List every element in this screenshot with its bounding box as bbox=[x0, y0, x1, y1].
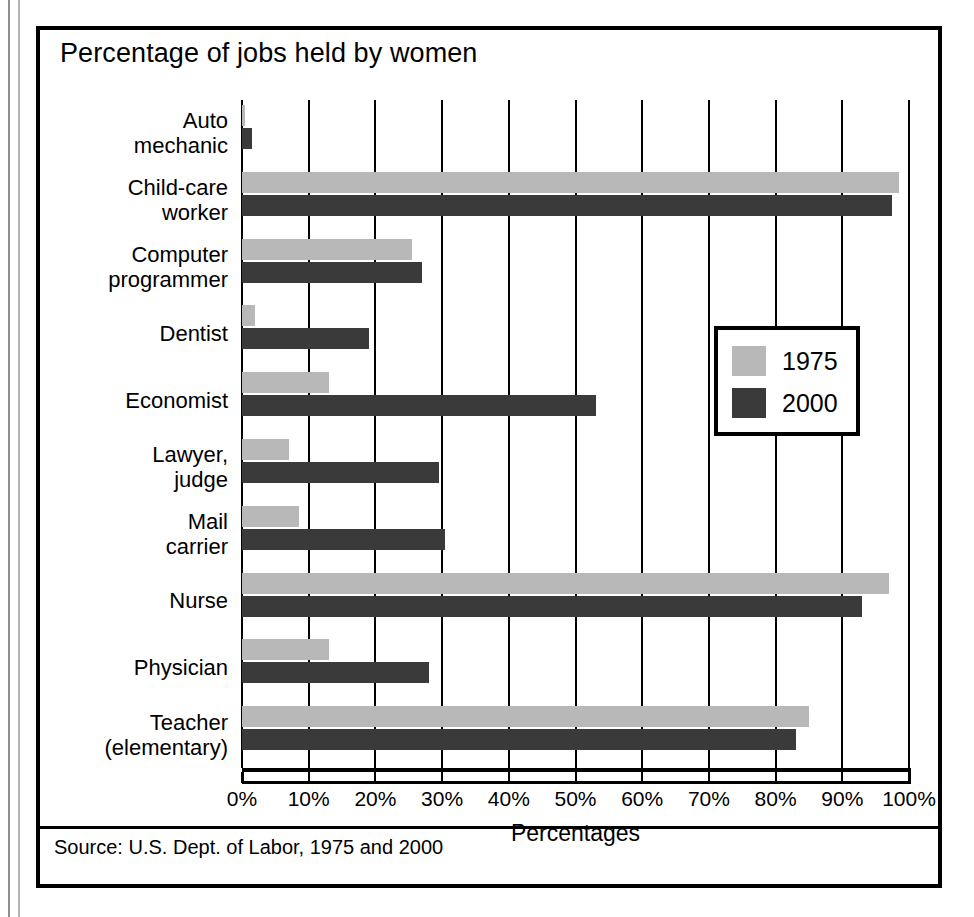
category-label-line: Computer bbox=[131, 242, 228, 267]
bar-1975 bbox=[242, 506, 299, 527]
category-label: Child-careworker bbox=[54, 167, 234, 234]
category-label-line: mechanic bbox=[134, 133, 228, 158]
category-label: Nurse bbox=[54, 568, 234, 635]
x-tick-10 bbox=[308, 772, 310, 783]
bar-group bbox=[242, 634, 909, 701]
bar-group bbox=[242, 501, 909, 568]
bar-1975 bbox=[242, 305, 255, 326]
x-tick-label-30%: 30% bbox=[421, 787, 463, 811]
page-edge-rule-secondary bbox=[18, 0, 20, 917]
legend-label-1975: 1975 bbox=[782, 347, 838, 376]
bar-1975 bbox=[242, 706, 809, 727]
category-label: Physician bbox=[54, 634, 234, 701]
category-label-line: Lawyer, bbox=[152, 442, 228, 467]
category-label-line: Economist bbox=[125, 388, 228, 413]
x-tick-label-20%: 20% bbox=[354, 787, 396, 811]
x-tick-label-70%: 70% bbox=[688, 787, 730, 811]
bar-2000 bbox=[242, 195, 892, 216]
x-tick-label-100%: 100% bbox=[882, 787, 936, 811]
bar-1975 bbox=[242, 105, 245, 126]
chart-figure: Percentage of jobs held by women Automec… bbox=[36, 26, 942, 888]
category-label: Teacher(elementary) bbox=[54, 701, 234, 768]
category-label-line: Teacher bbox=[150, 710, 228, 735]
x-tick-label-50%: 50% bbox=[554, 787, 596, 811]
bar-1975 bbox=[242, 573, 889, 594]
chart-legend: 1975 2000 bbox=[714, 326, 860, 436]
category-label: Computerprogrammer bbox=[54, 234, 234, 301]
bar-2000 bbox=[242, 729, 796, 750]
x-tick-label-80%: 80% bbox=[755, 787, 797, 811]
source-note: Source: U.S. Dept. of Labor, 1975 and 20… bbox=[54, 836, 443, 859]
bar-group bbox=[242, 434, 909, 501]
x-tick-30 bbox=[441, 772, 443, 783]
category-label: Mailcarrier bbox=[54, 501, 234, 568]
x-tick-60 bbox=[641, 772, 643, 783]
x-tick-20 bbox=[374, 772, 376, 783]
x-tick-40 bbox=[508, 772, 510, 783]
category-label-line: judge bbox=[174, 467, 228, 492]
x-tick-100 bbox=[908, 772, 910, 783]
bar-2000 bbox=[242, 328, 369, 349]
bar-2000 bbox=[242, 462, 439, 483]
category-label: Lawyer,judge bbox=[54, 434, 234, 501]
x-tick-50 bbox=[575, 772, 577, 783]
page-edge-rule bbox=[8, 0, 10, 917]
source-divider bbox=[40, 826, 938, 829]
bar-2000 bbox=[242, 662, 429, 683]
legend-item-1975: 1975 bbox=[732, 340, 856, 382]
bar-group bbox=[242, 701, 909, 768]
bar-2000 bbox=[242, 128, 252, 149]
category-label-line: Auto bbox=[183, 108, 228, 133]
x-axis-ticks bbox=[242, 772, 909, 784]
x-tick-label-90%: 90% bbox=[821, 787, 863, 811]
bar-2000 bbox=[242, 529, 445, 550]
x-tick-label-60%: 60% bbox=[621, 787, 663, 811]
bar-group bbox=[242, 568, 909, 635]
bar-group bbox=[242, 100, 909, 167]
bar-group bbox=[242, 234, 909, 301]
x-tick-label-0%: 0% bbox=[227, 787, 257, 811]
category-label-line: Child-care bbox=[128, 175, 228, 200]
x-axis-tick-labels: 0%10%20%30%40%50%60%70%80%90%100% bbox=[242, 787, 909, 817]
category-label-line: Nurse bbox=[169, 588, 228, 613]
category-label-line: (elementary) bbox=[105, 735, 228, 760]
legend-swatch-icon-2000 bbox=[732, 388, 766, 418]
legend-item-2000: 2000 bbox=[732, 382, 856, 424]
category-axis-labels: AutomechanicChild-careworkerComputerprog… bbox=[54, 100, 234, 768]
x-tick-label-10%: 10% bbox=[288, 787, 330, 811]
category-label-line: programmer bbox=[108, 267, 228, 292]
category-label-line: Mail bbox=[188, 509, 228, 534]
category-label-line: carrier bbox=[166, 534, 228, 559]
bar-1975 bbox=[242, 239, 412, 260]
bar-1975 bbox=[242, 639, 329, 660]
category-label: Economist bbox=[54, 367, 234, 434]
bar-2000 bbox=[242, 596, 862, 617]
x-tick-90 bbox=[841, 772, 843, 783]
x-tick-80 bbox=[775, 772, 777, 783]
category-label: Automechanic bbox=[54, 100, 234, 167]
category-label-line: Dentist bbox=[160, 321, 228, 346]
x-tick-70 bbox=[708, 772, 710, 783]
legend-label-2000: 2000 bbox=[782, 389, 838, 418]
page-title: Percentage of jobs held by women bbox=[60, 38, 477, 69]
x-tick-0 bbox=[241, 772, 243, 783]
bar-2000 bbox=[242, 395, 596, 416]
bar-2000 bbox=[242, 262, 422, 283]
x-tick-label-40%: 40% bbox=[488, 787, 530, 811]
bar-group bbox=[242, 167, 909, 234]
category-label: Dentist bbox=[54, 300, 234, 367]
legend-swatch-icon-1975 bbox=[732, 346, 766, 376]
bar-1975 bbox=[242, 172, 899, 193]
bar-1975 bbox=[242, 439, 289, 460]
category-label-line: worker bbox=[162, 200, 228, 225]
category-label-line: Physician bbox=[134, 655, 228, 680]
bar-1975 bbox=[242, 372, 329, 393]
